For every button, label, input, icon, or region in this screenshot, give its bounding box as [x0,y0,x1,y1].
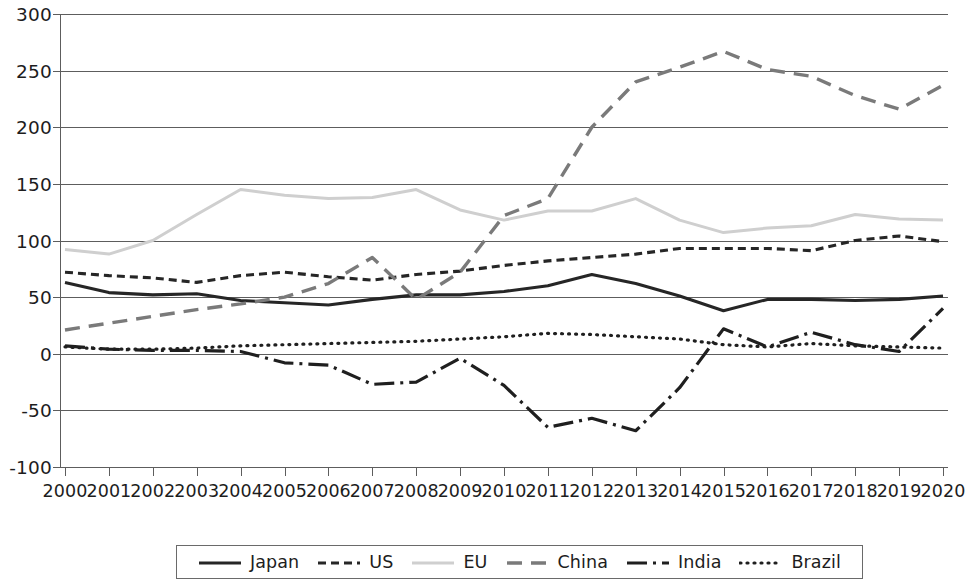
y-axis-tick-label: -50 [4,400,52,421]
x-axis-tick-mark [767,467,768,476]
y-axis-tick-mark [53,467,60,468]
series-line-us [65,236,943,282]
x-axis-tick-label: 2011 [525,481,570,501]
legend-swatch-india-icon [626,555,670,569]
x-axis-tick-label: 2008 [394,481,439,501]
y-axis-tick-label: 150 [4,173,52,194]
x-axis-tick-mark [724,467,725,476]
y-axis-tick-label: 300 [4,4,52,25]
x-axis-tick-label: 2000 [43,481,88,501]
legend-label: Brazil [791,552,840,572]
series-line-japan [65,274,943,310]
x-axis-tick-mark [65,467,66,476]
legend-swatch-brazil-icon [739,555,783,569]
x-axis-tick-mark [592,467,593,476]
x-axis-tick-mark [680,467,681,476]
x-axis-tick-mark [855,467,856,476]
legend-item-eu[interactable]: EU [411,552,487,572]
x-axis-tick-mark [548,467,549,476]
x-axis-tick-label: 2004 [218,481,263,501]
legend-item-china[interactable]: China [506,552,609,572]
x-axis-tick-label: 2015 [701,481,746,501]
series-line-china [65,51,943,330]
y-axis-tick-mark [53,410,60,411]
y-axis-tick-mark [53,297,60,298]
x-axis-tick-label: 2019 [877,481,922,501]
y-axis-tick-label: 250 [4,60,52,81]
series-line-india [65,308,943,430]
chart-legend: JapanUSEUChinaIndiaBrazil [176,545,863,579]
series-line-brazil [65,333,943,349]
legend-swatch-us-icon [317,555,361,569]
y-axis-tick-label: 0 [4,343,52,364]
legend-item-us[interactable]: US [317,552,393,572]
x-axis-tick-label: 2014 [657,481,702,501]
line-chart: 300250200150100500-50-100 20002001200220… [0,0,958,520]
series-lines [60,14,948,467]
legend-label: China [558,552,609,572]
y-axis-tick-label: -100 [4,457,52,478]
y-axis-tick-mark [53,354,60,355]
x-axis-tick-label: 2002 [130,481,175,501]
x-axis-tick-label: 2020 [921,481,965,501]
x-axis-tick-mark [197,467,198,476]
legend-label: US [369,552,393,572]
legend-label: EU [463,552,487,572]
legend-item-brazil[interactable]: Brazil [739,552,840,572]
y-axis-tick-mark [53,14,60,15]
plot-area [60,14,948,467]
x-axis-tick-mark [943,467,944,476]
x-axis-tick-label: 2001 [86,481,131,501]
legend-swatch-eu-icon [411,555,455,569]
x-axis-tick-label: 2010 [482,481,527,501]
x-axis-tick-label: 2016 [745,481,790,501]
x-axis-tick-label: 2018 [833,481,878,501]
x-axis-tick-mark [504,467,505,476]
x-axis-tick-label: 2006 [306,481,351,501]
x-axis-tick-mark [328,467,329,476]
x-axis-tick-mark [460,467,461,476]
legend-item-japan[interactable]: Japan [198,552,299,572]
x-axis-tick-mark [811,467,812,476]
legend-item-india[interactable]: India [626,552,721,572]
legend-swatch-china-icon [506,555,550,569]
x-axis-tick-mark [636,467,637,476]
y-axis-tick-mark [53,127,60,128]
y-axis-tick-label: 200 [4,117,52,138]
x-axis-tick-label: 2012 [569,481,614,501]
x-axis-labels: 2000200120022003200420052006200720082009… [0,481,958,511]
x-axis-tick-mark [153,467,154,476]
x-axis-tick-mark [372,467,373,476]
x-axis-ticks [60,467,948,477]
series-line-eu [65,190,943,255]
y-axis-tick-label: 100 [4,230,52,251]
legend-label: Japan [250,552,299,572]
x-axis-tick-label: 2017 [789,481,834,501]
legend-swatch-japan-icon [198,555,242,569]
y-axis-tick-mark [53,241,60,242]
x-axis-tick-mark [416,467,417,476]
x-axis-tick-label: 2003 [174,481,219,501]
x-axis-tick-label: 2009 [438,481,483,501]
x-axis-tick-mark [285,467,286,476]
x-axis-tick-label: 2005 [262,481,307,501]
y-axis-tick-mark [53,184,60,185]
y-axis-tick-label: 50 [4,287,52,308]
x-axis-tick-mark [109,467,110,476]
x-axis-tick-label: 2007 [350,481,395,501]
x-axis-tick-mark [899,467,900,476]
y-axis-tick-mark [53,71,60,72]
x-axis-tick-label: 2013 [613,481,658,501]
x-axis-tick-mark [241,467,242,476]
legend-label: India [678,552,721,572]
